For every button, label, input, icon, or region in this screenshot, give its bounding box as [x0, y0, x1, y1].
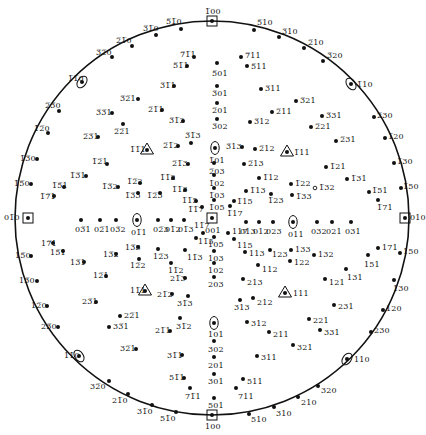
pole-label: 13̅1	[70, 259, 86, 267]
pole-dot-marker	[107, 379, 111, 383]
pole-dot-marker	[392, 278, 396, 282]
pole-dot-marker	[243, 250, 247, 254]
pole-ring-marker	[313, 186, 317, 190]
pole-label: 150	[403, 248, 419, 256]
pole-dot-marker	[189, 141, 193, 145]
pole-label: 7̅1̅1	[180, 51, 196, 59]
pole-label: 23̅0	[41, 323, 57, 331]
pole-dot-marker	[212, 275, 216, 279]
pole-label: 231	[338, 303, 354, 311]
pole-dot-marker	[307, 317, 311, 321]
pole-label: 2̅01	[212, 107, 228, 115]
pole-label: 3̅10	[282, 28, 298, 36]
pole-dot-marker	[270, 110, 274, 114]
pole-label: 2̅13	[248, 160, 264, 168]
pole-label: 1̅31	[351, 175, 367, 183]
pole-label: 11̅1	[130, 287, 146, 295]
pole-label: 105	[208, 241, 224, 249]
pole-label: 32̅1	[120, 345, 136, 353]
pole-dot-marker	[398, 251, 402, 255]
pole-label: 3̅21	[300, 97, 316, 105]
pole-dot-marker	[212, 249, 216, 253]
pole-label: 01̅1	[131, 229, 147, 237]
pole-dot-marker	[315, 220, 319, 224]
pole-label: 03̅1	[75, 226, 91, 234]
pole-dot-marker	[345, 177, 349, 181]
pole-label: 112	[262, 266, 278, 274]
pole-label: 2̅2̅1	[114, 128, 130, 136]
pole-label: 110	[354, 356, 370, 364]
pole-dot-marker	[392, 161, 396, 165]
pole-label: 130	[393, 285, 409, 293]
pole-dot-marker	[239, 55, 243, 59]
pole-ellipse-marker	[210, 317, 218, 330]
pole-dot-marker	[349, 220, 353, 224]
pole-label: 3̅2̅0	[96, 49, 112, 57]
pole-label: 1̅32	[319, 184, 335, 192]
pole-dot-marker	[366, 253, 370, 257]
pole-label: 12̅0	[31, 302, 47, 310]
pole-label: 321	[297, 344, 313, 352]
pole-label: 1̅15	[237, 198, 253, 206]
pole-label: 3̅1̅2	[169, 117, 185, 125]
pole-label: 101	[208, 331, 224, 339]
pole-ellipse-marker	[133, 214, 141, 227]
pole-dot-marker	[271, 220, 275, 224]
pole-label: 22̅1	[124, 312, 140, 320]
pole-label: 2̅10	[308, 39, 324, 47]
pole-dot-marker	[169, 218, 173, 222]
pole-label: 132	[318, 251, 334, 259]
pole-label: 2̅1̅2	[163, 142, 179, 150]
pole-label: 1̅51	[372, 187, 388, 195]
pole-dot-marker	[188, 386, 192, 390]
pole-dot-marker	[334, 139, 338, 143]
pole-label: 1̅12	[263, 174, 279, 182]
pole-label: 011	[288, 231, 304, 239]
pole-label: 01̅0	[4, 214, 20, 222]
pole-dot-marker	[257, 220, 261, 224]
pole-label: 5̅01	[212, 70, 228, 78]
pole-label: 11̅7	[194, 222, 210, 230]
pole-dot-marker	[212, 396, 216, 400]
pole-label: 2̅31	[340, 136, 356, 144]
pole-dot-marker	[289, 182, 293, 186]
pole-label: 212	[257, 299, 273, 307]
pole-dot-marker	[212, 355, 216, 359]
pole-dot-marker	[182, 218, 186, 222]
pole-label: 2̅1̅3	[172, 160, 188, 168]
pole-dot-marker	[309, 125, 313, 129]
pole-dot-marker	[267, 330, 271, 334]
pole-label: 31̅2	[176, 323, 192, 331]
pole-dot-marker	[330, 220, 334, 224]
pole-dot-marker	[321, 59, 325, 63]
pole-label: 3̅12	[254, 118, 270, 126]
pole-label: 1̅21	[330, 163, 346, 171]
pole-dot-marker	[323, 277, 327, 281]
pole-dot-marker	[255, 354, 259, 358]
pole-label: 1̅3̅3	[125, 192, 141, 200]
pole-label: 3̅2̅1	[120, 95, 136, 103]
pole-dot-marker	[232, 199, 236, 203]
pole-label: 1̅02	[209, 180, 225, 188]
pole-label: 5̅1̅0	[166, 18, 182, 26]
pole-label: 31̅1	[167, 352, 183, 360]
pole-dot-marker	[234, 386, 238, 390]
pole-label: 1̅01	[209, 157, 225, 165]
pole-label: 2̅3̅1	[83, 133, 99, 141]
pole-label: 13̅2	[103, 251, 119, 259]
pole-label: 1̅23	[268, 197, 284, 205]
pole-ellipse-marker	[289, 216, 297, 229]
pole-label: 2̅1̅1	[148, 106, 164, 114]
pole-dot-marker	[228, 204, 232, 208]
pole-dot-marker	[241, 377, 245, 381]
pole-label: 203	[208, 281, 224, 289]
pole-label: 3̅3̅1	[96, 109, 112, 117]
pole-label: 123	[272, 251, 288, 259]
pole-label: 1̅71	[377, 204, 393, 212]
pole-label: 21̅0	[112, 397, 128, 405]
pole-label: 010	[410, 214, 426, 222]
pole-label: 511	[247, 378, 263, 386]
pole-label: 31̅3	[177, 300, 193, 308]
pole-label: 1̅5̅0	[14, 180, 30, 188]
